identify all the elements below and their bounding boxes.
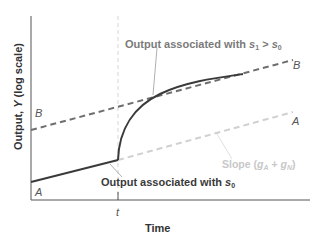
growth-diagram: B B A A Output associated with s1 > s0 O… <box>0 0 317 237</box>
annotation-s1: Output associated with s1 > s0 <box>125 38 282 51</box>
x-axis-label: Time <box>145 222 170 234</box>
t-tick-label: t <box>116 206 120 218</box>
slope-leader-line <box>217 134 232 159</box>
label-b-left: B <box>35 107 42 119</box>
annotation-slope: Slope (gA + gN) <box>222 158 295 171</box>
transition-curve <box>118 74 243 160</box>
path-a-dashed <box>118 112 293 160</box>
s1-leader-line <box>153 48 157 95</box>
label-a-left: A <box>34 186 42 198</box>
label-a-right: A <box>291 115 299 127</box>
y-axis-label: Output, Y (log scale) <box>12 43 24 150</box>
label-b-right: B <box>293 59 300 71</box>
path-b-dashed <box>31 60 293 130</box>
annotation-s0: Output associated with s0 <box>101 176 235 189</box>
